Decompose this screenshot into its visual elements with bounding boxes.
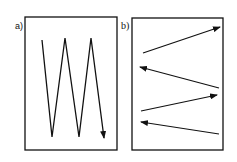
diagram-canvas: [0, 0, 237, 162]
panel-b-frame: [132, 18, 223, 150]
panel-b-arrow-4: [141, 122, 219, 134]
panel-b-arrow-3: [141, 95, 217, 111]
panel-a-zigzag-arrow: [42, 38, 104, 138]
panel-b-arrow-1: [143, 27, 220, 53]
panel-b-arrow-2: [140, 67, 219, 88]
